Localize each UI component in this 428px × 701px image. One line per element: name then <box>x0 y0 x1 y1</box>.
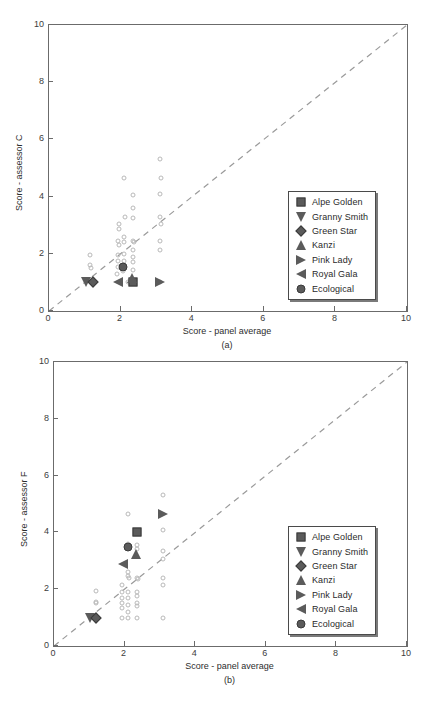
triangle-up-marker-icon <box>296 240 306 250</box>
diamond-marker-icon <box>295 560 306 571</box>
triangle-up-marker-icon <box>296 575 306 585</box>
y-tick-mark <box>53 645 58 646</box>
legend-item-pink-lady[interactable]: Pink Lady <box>293 253 368 267</box>
x-tick-label: 4 <box>192 648 197 658</box>
data-point-open <box>131 206 136 211</box>
legend-item-alpe-golden[interactable]: Alpe Golden <box>293 195 368 209</box>
data-point-open <box>122 176 127 181</box>
data-point-green-star <box>91 612 102 623</box>
figure-two-scatter-panels: 02468100246810Score - panel averageScore… <box>0 0 428 701</box>
data-point-open <box>161 548 166 553</box>
y-tick-label: 4 <box>29 526 49 536</box>
legend-item-ecological[interactable]: Ecological <box>293 281 368 295</box>
data-point-alpe-golden <box>132 527 141 536</box>
triangle-right-marker-icon <box>296 590 306 600</box>
x-tick-label: 10 <box>401 313 411 323</box>
legend-item-label: Granny Smith <box>309 547 368 557</box>
legend-b: Alpe GoldenGranny SmithGreen StarKanziPi… <box>288 526 376 635</box>
data-point-open <box>89 266 94 271</box>
data-point-open <box>131 267 136 272</box>
y-tick-mark <box>48 310 53 311</box>
data-point-open <box>134 601 139 606</box>
triangle-left-marker-icon <box>296 604 306 614</box>
legend-item-granny-smith[interactable]: Granny Smith <box>293 209 368 223</box>
legend-item-label: Alpe Golden <box>309 197 363 207</box>
y-tick-label: 4 <box>24 191 44 201</box>
x-tick-label: 8 <box>332 313 337 323</box>
legend-item-label: Kanzi <box>309 240 335 250</box>
legend-item-kanzi[interactable]: Kanzi <box>293 238 368 252</box>
data-point-open <box>126 574 131 579</box>
data-point-open <box>131 238 136 243</box>
data-point-open <box>157 280 162 285</box>
legend-item-royal-gala[interactable]: Royal Gala <box>293 602 368 616</box>
legend-symbol-wrap <box>293 210 309 224</box>
y-tick-label: 8 <box>29 413 49 423</box>
data-point-open <box>121 264 126 269</box>
data-point-open <box>134 547 139 552</box>
data-point-open <box>88 253 93 258</box>
data-point-open <box>158 176 163 181</box>
legend-item-alpe-golden[interactable]: Alpe Golden <box>293 530 368 544</box>
y-tick-mark <box>48 253 53 254</box>
y-tick-mark <box>53 418 58 419</box>
data-point-open <box>122 214 127 219</box>
data-point-open <box>126 615 131 620</box>
legend-symbol-wrap <box>293 588 309 602</box>
circle-marker-icon <box>297 284 306 293</box>
data-point-granny-smith <box>85 613 95 623</box>
data-point-open <box>134 575 139 580</box>
legend-item-granny-smith[interactable]: Granny Smith <box>293 544 368 558</box>
data-point-open <box>116 243 121 248</box>
data-point-open <box>161 527 166 532</box>
triangle-down-marker-icon <box>296 547 306 557</box>
data-point-open <box>134 543 139 548</box>
data-point-green-star <box>87 277 98 288</box>
data-point-open <box>93 599 98 604</box>
y-axis-title: Score - assessor C <box>14 134 24 211</box>
legend-symbol-wrap <box>293 253 309 267</box>
data-point-open <box>119 615 124 620</box>
data-point-open <box>157 214 162 219</box>
data-point-open <box>126 280 131 285</box>
data-point-open <box>134 615 139 620</box>
data-point-open <box>121 268 126 273</box>
triangle-right-marker-icon <box>296 255 306 265</box>
legend-symbol-wrap <box>293 282 309 296</box>
data-point-open <box>115 258 120 263</box>
legend-item-ecological[interactable]: Ecological <box>293 616 368 630</box>
data-point-kanzi <box>127 273 137 283</box>
y-tick-mark <box>48 24 53 25</box>
legend-item-label: Green Star <box>309 561 357 571</box>
x-tick-label: 10 <box>401 648 411 658</box>
data-point-open <box>116 227 121 232</box>
y-tick-mark <box>48 196 53 197</box>
legend-item-royal-gala[interactable]: Royal Gala <box>293 267 368 281</box>
legend-item-green-star[interactable]: Green Star <box>293 559 368 573</box>
data-point-granny-smith <box>81 277 91 287</box>
square-marker-icon <box>297 198 306 207</box>
x-tick-mark <box>334 306 335 311</box>
data-point-open <box>126 602 131 607</box>
legend-item-pink-lady[interactable]: Pink Lady <box>293 588 368 602</box>
data-point-open <box>93 588 98 593</box>
data-point-open <box>126 575 131 580</box>
legend-item-green-star[interactable]: Green Star <box>293 224 368 238</box>
data-point-kanzi <box>131 549 141 559</box>
x-tick-label: 2 <box>117 313 122 323</box>
data-point-open <box>131 254 136 259</box>
legend-item-label: Pink Lady <box>309 590 352 600</box>
data-point-open <box>161 582 166 587</box>
legend-item-kanzi[interactable]: Kanzi <box>293 573 368 587</box>
data-point-open <box>131 216 136 221</box>
legend-symbol-wrap <box>293 573 309 587</box>
data-point-pink-lady <box>155 277 165 287</box>
data-point-open <box>157 157 162 162</box>
data-point-open <box>134 590 139 595</box>
x-tick-mark <box>194 641 195 646</box>
x-tick-label: 0 <box>50 648 55 658</box>
x-tick-mark <box>265 641 266 646</box>
data-point-pink-lady <box>158 509 168 519</box>
data-point-open <box>157 247 162 252</box>
legend-symbol-wrap <box>293 545 309 559</box>
